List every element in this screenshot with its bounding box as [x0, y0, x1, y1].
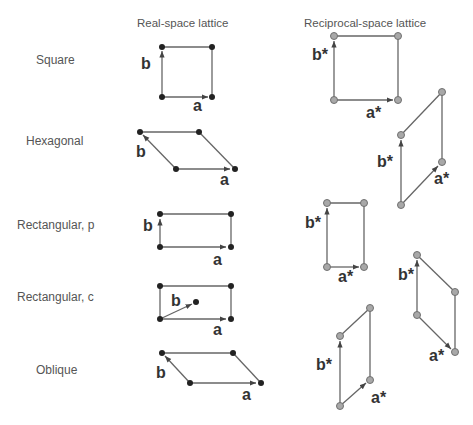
vector-label-b-star: b* — [305, 214, 322, 231]
square-reciprocal-nodes — [331, 33, 402, 104]
vector-label-a-star: a* — [434, 170, 450, 187]
vector-label-b-star: b* — [398, 266, 415, 283]
hexagonal-real-lattice — [140, 132, 235, 169]
square-real-nodes — [159, 44, 215, 100]
vector-label-a-star: a* — [371, 389, 387, 406]
vector-label-b-star: b* — [377, 153, 394, 170]
vector-label-a: a — [220, 171, 229, 188]
hexagonal-real-nodes — [137, 129, 238, 172]
vector-label-b: b — [141, 55, 151, 72]
rectangular-p-reciprocal-nodes — [324, 200, 368, 271]
oblique-reciprocal-nodes — [337, 305, 374, 410]
vector-label-a-star: a* — [338, 268, 354, 285]
oblique-real-lattice — [162, 353, 261, 383]
square-real-lattice — [162, 47, 212, 97]
rectangular-c-real-nodes — [157, 283, 234, 322]
square-reciprocal-lattice — [334, 36, 398, 100]
vector-label-b: b — [171, 292, 181, 309]
vector-label-a: a — [213, 321, 222, 338]
rectangular-p-real-nodes — [157, 211, 234, 250]
vector-label-a-star: a* — [429, 347, 445, 364]
hexagonal-reciprocal-nodes — [398, 89, 446, 209]
vector-label-b-star: b* — [312, 46, 329, 63]
oblique-reciprocal-lattice — [340, 308, 370, 406]
rectangular-p-reciprocal-lattice — [327, 203, 364, 267]
rectangular-p-real-lattice — [160, 214, 231, 247]
vector-label-b: b — [136, 143, 146, 160]
vector-label-a: a — [193, 97, 202, 114]
lattice-diagram: b a b* a* b a b* a* — [0, 0, 473, 425]
rectangular-c-reciprocal-lattice — [417, 255, 455, 352]
rectangular-c-reciprocal-nodes — [414, 252, 459, 356]
vector-label-a: a — [213, 251, 222, 268]
vector-label-b: b — [143, 217, 153, 234]
vector-label-a: a — [242, 386, 251, 403]
vector-label-b: b — [156, 364, 166, 381]
oblique-real-nodes — [159, 350, 264, 386]
vector-label-b-star: b* — [316, 356, 333, 373]
hexagonal-reciprocal-lattice — [401, 92, 442, 205]
vector-label-a-star: a* — [366, 104, 382, 121]
